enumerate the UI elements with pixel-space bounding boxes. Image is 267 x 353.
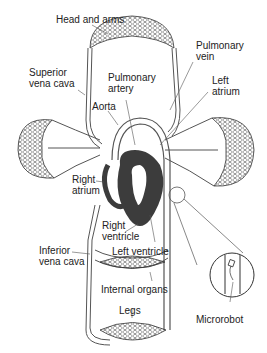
label-aorta: Aorta <box>92 101 116 112</box>
internal-organs-capillary-bed <box>100 256 165 269</box>
label-left-ventricle: Left ventricle <box>112 246 169 257</box>
label-left-atrium: Left atrium <box>212 75 240 97</box>
label-pulmonary-vein: Pulmonary vein <box>196 40 244 62</box>
label-right-ventricle: Right ventricle <box>102 220 139 242</box>
microrobot-inset <box>169 187 254 302</box>
label-right-atrium: Right atrium <box>72 174 100 196</box>
label-superior-vena-cava: Superior vena cava <box>29 67 75 89</box>
right-lung-capillaries <box>165 118 254 187</box>
legs-capillary-bed <box>100 323 166 341</box>
circulatory-diagram: Head and arms Superior vena cava Pulmona… <box>0 0 267 353</box>
label-microrobot: Microrobot <box>196 314 243 325</box>
label-head-and-arms: Head and arms <box>56 14 124 25</box>
left-lung-capillaries <box>18 120 100 179</box>
upper-vessels <box>86 48 180 148</box>
label-internal-organs: Internal organs <box>101 284 168 295</box>
heart <box>104 150 163 226</box>
label-pulmonary-artery: Pulmonary artery <box>108 72 156 94</box>
label-legs: Legs <box>119 305 141 316</box>
label-inferior-vena-cava: Inferior vena cava <box>39 245 85 267</box>
